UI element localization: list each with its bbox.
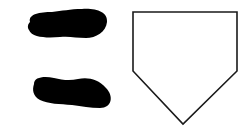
footprint-top: [28, 9, 107, 38]
diagram-canvas: [0, 0, 249, 136]
